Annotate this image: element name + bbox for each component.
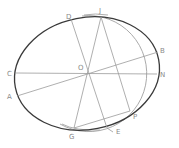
line-J-G [74,17,101,128]
line-J-P [101,17,130,111]
label-G: G [69,133,74,141]
line-C-N [16,73,157,74]
label-P: P [133,113,137,121]
label-O: O [78,64,84,72]
label-E: E [116,128,120,136]
label-D: D [66,13,71,21]
label-B: B [160,47,165,55]
label-A: A [7,93,12,101]
label-J: J [98,7,101,15]
line-E-tick [107,128,113,132]
label-C: C [7,70,12,78]
label-N: N [160,71,165,79]
diagram-canvas: D J B C O N A P G E [0,0,179,148]
tick-arc-top [84,14,108,15]
ellipse-diagram: D J B C O N A P G E [0,0,179,148]
